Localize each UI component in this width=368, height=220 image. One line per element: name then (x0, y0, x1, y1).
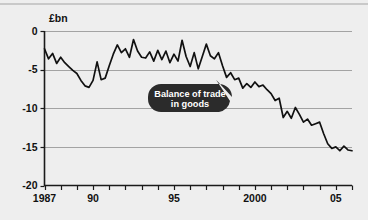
y-axis-unit-label: £bn (49, 12, 68, 24)
balance-of-trade-callout: Balance of trade in goods (148, 80, 232, 112)
y-tick-label: -5 (28, 63, 37, 75)
y-tick-label: -15 (22, 141, 37, 153)
x-tick-label: 2000 (243, 192, 267, 204)
line-chart: 0-5-10-15-20 19879095200005 £bn Balance … (0, 0, 368, 220)
chart-svg: 0-5-10-15-20 19879095200005 £bn Balance … (0, 0, 368, 220)
callout-text-line-2: in goods (171, 99, 209, 109)
y-tick-label: -10 (22, 102, 37, 114)
y-tick-label: 0 (32, 25, 38, 37)
x-tick-label: 90 (87, 192, 99, 204)
y-tick-labels-group: 0-5-10-15-20 (22, 25, 37, 192)
x-tick-labels-group: 19879095200005 (33, 192, 342, 204)
x-tick-label: 1987 (33, 192, 57, 204)
x-tick-label: 05 (330, 192, 342, 204)
y-tick-label: -20 (22, 179, 37, 191)
callout-text-line-1: Balance of trade (154, 89, 225, 99)
x-tick-label: 95 (168, 192, 180, 204)
chart-screenshot: 0-5-10-15-20 19879095200005 £bn Balance … (0, 0, 368, 220)
